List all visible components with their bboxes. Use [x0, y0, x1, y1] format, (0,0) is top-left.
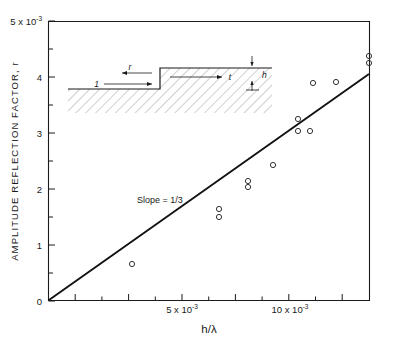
step-geometry-inset: 1 r t h: [64, 56, 279, 116]
inset-label-incident: 1: [94, 79, 99, 89]
x-axis-tick-labels: 5 x 10-3 10 x 10-3: [166, 303, 309, 315]
data-point: [216, 214, 221, 219]
y-tick-label-5: 5 x 10-3: [10, 15, 42, 27]
data-point: [129, 261, 134, 266]
y-tick-label-1: 1: [37, 240, 42, 251]
data-point: [333, 79, 338, 84]
data-point: [245, 178, 250, 183]
x-tick-label-5e-3: 5 x 10-3: [166, 303, 198, 315]
data-point: [307, 128, 312, 133]
y-tick-label-3: 3: [37, 128, 42, 139]
x-tick-label-10e-3: 10 x 10-3: [272, 303, 309, 315]
plot-axes: [49, 21, 371, 301]
y-tick-label-0: 0: [37, 296, 42, 307]
data-point: [270, 162, 275, 167]
data-point: [216, 206, 221, 211]
y-tick-label-4: 4: [37, 72, 42, 83]
inset-label-reflected: r: [129, 62, 133, 72]
data-point: [310, 80, 315, 85]
x-axis-title: h/λ: [201, 323, 217, 335]
data-point: [295, 116, 300, 121]
y-axis-title: AMPLITUDE REFLECTION FACTOR, r: [9, 61, 20, 261]
data-point: [245, 184, 250, 189]
x-axis-ticks: [75, 294, 342, 301]
inset-label-height: h: [262, 70, 267, 80]
y-tick-label-2: 2: [37, 184, 42, 195]
data-point: [295, 128, 300, 133]
y-axis-ticks: [49, 21, 56, 301]
slope-annotation: Slope = 1/3: [137, 195, 183, 205]
amplitude-reflection-factor-chart: 0 1 2 3 4 5 x 10-3 5 x 10-3 10 x 10-3 AM…: [0, 0, 399, 347]
